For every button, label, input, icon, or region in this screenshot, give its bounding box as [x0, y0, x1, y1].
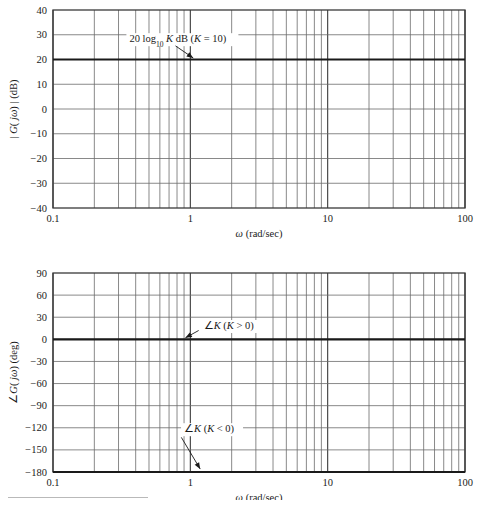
y-axis-tick-label: 60 — [37, 290, 48, 301]
x-axis-tick-label: 10 — [322, 213, 333, 224]
y-axis-tick-label: 20 — [37, 54, 48, 65]
x-axis-tick-label: 0.1 — [46, 477, 59, 488]
phase-plot-canvas: 9060300−30−60−90−120−150−1800.1110100ω (… — [0, 255, 487, 500]
y-axis-tick-label: 30 — [37, 312, 48, 323]
y-axis-tick-label: 0 — [42, 104, 47, 115]
y-axis-tick-label: −30 — [31, 356, 47, 367]
x-axis-tick-label: 0.1 — [46, 213, 59, 224]
annotation-arrow-head — [186, 52, 193, 58]
x-axis-tick-label: 1 — [188, 213, 193, 224]
x-minor-gridlines — [94, 273, 458, 472]
y-axis-tick-label: −120 — [25, 422, 47, 433]
annotation-arrow-head — [195, 462, 201, 469]
phase-annotation-positive: ∠K (K > 0) — [185, 320, 262, 338]
magnitude-plot-canvas: 403020100−10−20−30−400.1110100ω (rad/sec… — [0, 0, 487, 245]
x-axis-tick-label: 100 — [457, 213, 473, 224]
y-axis-tick-label: −10 — [31, 128, 47, 139]
y-axis-tick-label: −90 — [31, 400, 47, 411]
x-axis-title: ω (rad/sec) — [236, 492, 283, 500]
y-axis-tick-label: 10 — [37, 79, 48, 90]
y-axis-tick-label: −20 — [31, 153, 47, 164]
annotation-label: 20 log10 K dB (K = 10) — [129, 33, 226, 49]
y-axis-tick-label: −180 — [25, 467, 47, 478]
bode-plot-figure: 403020100−10−20−30−400.1110100ω (rad/sec… — [0, 0, 487, 513]
y-gridlines — [53, 295, 465, 450]
y-axis-title: | G( jω) | (dB) — [8, 79, 20, 138]
annotation-label: ∠K (K > 0) — [204, 320, 255, 332]
y-axis-tick-label: −30 — [31, 178, 47, 189]
y-axis-tick-label: 40 — [37, 5, 48, 16]
x-axis-tick-label: 100 — [457, 477, 473, 488]
y-axis-tick-label: 90 — [37, 268, 48, 279]
magnitude-plot: 403020100−10−20−30−400.1110100ω (rad/sec… — [0, 0, 487, 245]
figure-footer-rule — [8, 497, 148, 498]
annotation-arrow-head — [185, 332, 192, 337]
y-axis-tick-label: 0 — [42, 334, 47, 345]
x-axis-tick-label: 10 — [322, 477, 333, 488]
y-axis-tick-label: −40 — [31, 203, 47, 214]
x-axis-tick-label: 1 — [188, 477, 193, 488]
y-axis-tick-label: −60 — [31, 378, 47, 389]
y-axis-tick-label: −150 — [25, 444, 47, 455]
y-axis-tick-label: 30 — [37, 29, 48, 40]
plot-frame — [53, 273, 465, 472]
x-major-gridlines — [53, 273, 465, 472]
annotation-label: ∠K (K < 0) — [184, 423, 235, 435]
phase-plot: 9060300−30−60−90−120−150−1800.1110100ω (… — [0, 255, 487, 500]
y-axis-title: ∠G( jω) (deg) — [8, 341, 20, 404]
x-axis-title: ω (rad/sec) — [236, 228, 283, 240]
magnitude-annotation: 20 log10 K dB (K = 10) — [126, 33, 238, 58]
y-gridlines — [53, 35, 465, 184]
